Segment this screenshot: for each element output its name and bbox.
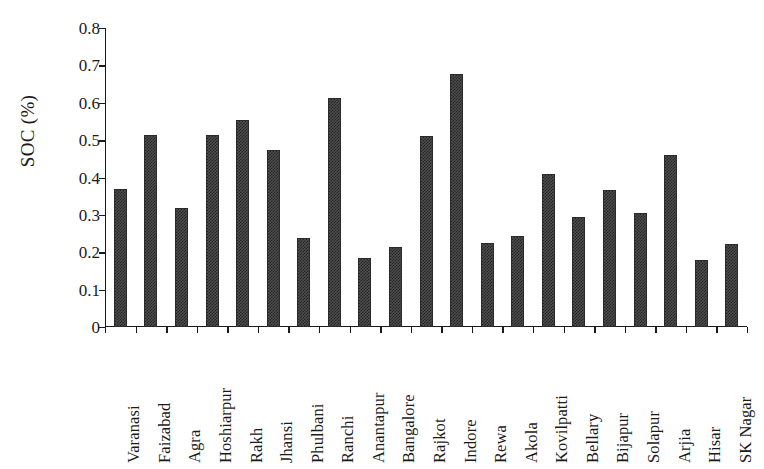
- bar-chart-figure: SOC (%) 00.10.20.30.40.50.60.70.8 Varana…: [0, 0, 764, 469]
- x-axis-tick-label: Agra: [187, 430, 204, 463]
- y-axis-tick-mark: [99, 290, 105, 291]
- bar: [511, 236, 524, 327]
- bar: [695, 260, 708, 327]
- bar: [175, 208, 188, 327]
- y-axis-tick-label: 0.8: [48, 20, 100, 37]
- bar: [542, 174, 555, 327]
- x-axis-tick-label: Solapur: [646, 411, 663, 463]
- bar: [236, 120, 249, 327]
- x-axis-tick-label-group: VaranasiFaizabadAgraHoshiarpurRakhJhansi…: [105, 333, 747, 469]
- x-axis-tick-label: Jhansi: [279, 421, 296, 463]
- y-axis-tick-mark: [99, 140, 105, 141]
- bar: [267, 150, 280, 327]
- x-axis-tick-label: Bangalore: [401, 394, 418, 463]
- y-axis-tick-mark: [99, 252, 105, 253]
- x-axis-tick-label: Varanasi: [126, 405, 143, 463]
- x-axis-tick-label: Kovilpatti: [554, 395, 571, 463]
- bar: [481, 243, 494, 327]
- x-axis-tick-label: Rakh: [249, 428, 266, 463]
- bar: [420, 136, 433, 327]
- bar: [603, 190, 616, 327]
- plot-area: [105, 28, 747, 327]
- bar: [206, 135, 219, 327]
- y-axis-tick-label: 0.1: [48, 281, 100, 298]
- y-axis-tick-label: 0.3: [48, 206, 100, 223]
- y-axis-tick-label: 0: [48, 319, 100, 336]
- y-axis-tick-label-group: 00.10.20.30.40.50.60.70.8: [48, 0, 100, 340]
- x-axis-tick-label: Anantapur: [371, 392, 388, 463]
- bar: [328, 98, 341, 327]
- y-axis-tick-mark: [99, 65, 105, 66]
- x-axis-tick-mark: [747, 327, 748, 333]
- bar: [450, 74, 463, 327]
- y-axis-tick-label: 0.6: [48, 94, 100, 111]
- bar: [358, 258, 371, 327]
- bar: [634, 213, 647, 327]
- x-axis-tick-label: Bellary: [585, 414, 602, 463]
- x-axis-tick-label: Arjia: [677, 429, 694, 463]
- bar: [389, 247, 402, 327]
- x-axis-tick-label: Bijapur: [615, 413, 632, 463]
- bar: [297, 238, 310, 327]
- x-axis-tick-label: Akola: [524, 422, 541, 463]
- y-axis-tick-label: 0.4: [48, 169, 100, 186]
- bar: [144, 135, 157, 327]
- bar: [572, 217, 585, 327]
- x-axis-tick-label: Indore: [463, 419, 480, 463]
- y-axis-tick-mark: [99, 28, 105, 29]
- x-axis-tick-label: Ranchi: [340, 416, 357, 463]
- x-axis-tick-label: Rajkot: [432, 418, 449, 463]
- y-axis-line: [105, 28, 106, 327]
- x-axis-tick-label: SK Nagar: [738, 397, 755, 463]
- x-axis-tick-label: Faizabad: [157, 403, 174, 463]
- y-axis-tick-mark: [99, 178, 105, 179]
- x-axis-tick-label: Rewa: [493, 425, 510, 463]
- y-axis-tick-label: 0.7: [48, 57, 100, 74]
- x-axis-tick-label: Hoshiarpur: [218, 388, 235, 463]
- y-axis-tick-label: 0.2: [48, 244, 100, 261]
- y-axis-title: SOC (%): [17, 61, 39, 201]
- y-axis-tick-mark: [99, 215, 105, 216]
- y-axis-tick-mark: [99, 103, 105, 104]
- x-axis-tick-label: Phulbani: [310, 404, 327, 463]
- x-axis-tick-label: Hisar: [707, 427, 724, 463]
- y-axis-tick-label: 0.5: [48, 132, 100, 149]
- bar: [725, 244, 738, 327]
- bar: [114, 189, 127, 327]
- bar: [664, 155, 677, 327]
